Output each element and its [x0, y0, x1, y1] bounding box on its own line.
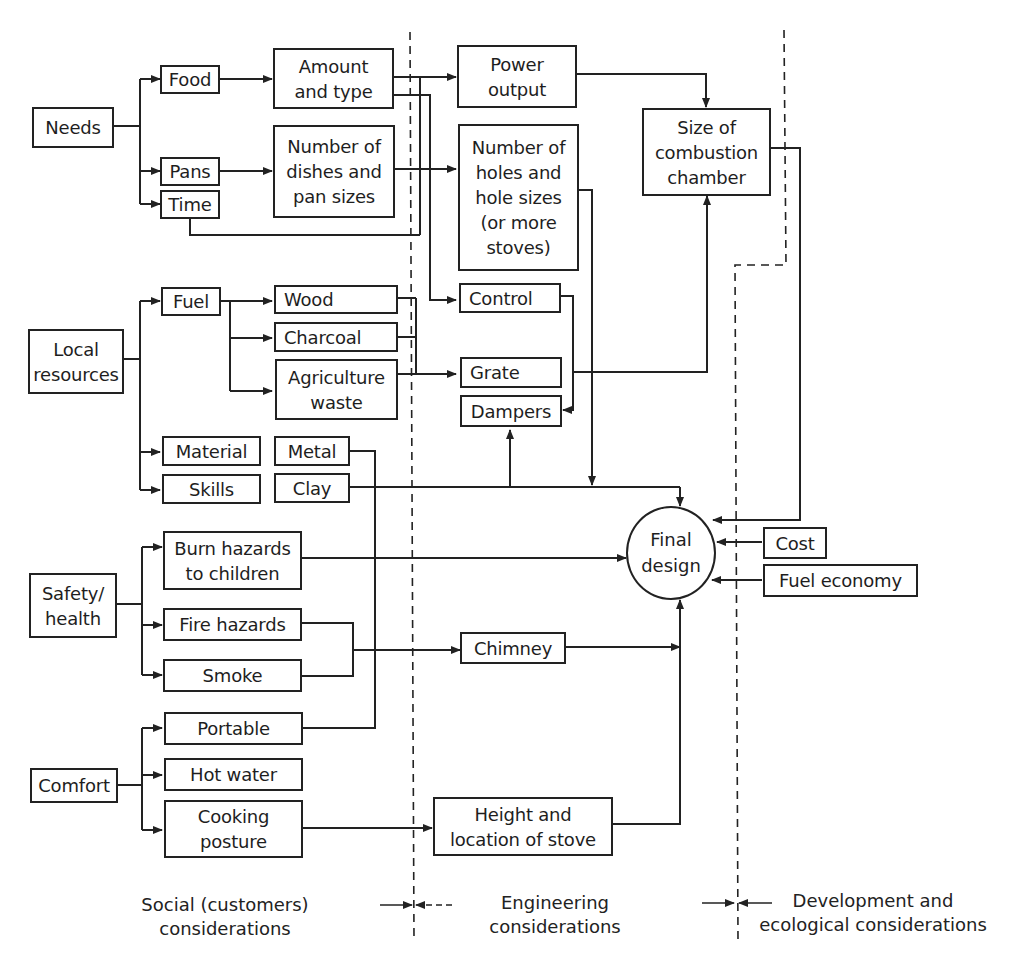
control-box: Control — [459, 283, 561, 313]
portable-box: Portable — [164, 712, 303, 745]
cooking-posture-box: Cooking posture — [164, 800, 303, 858]
wood-box: Wood — [274, 285, 398, 314]
cost-box: Cost — [763, 527, 827, 559]
combustion-chamber-box: Size of combustion chamber — [642, 108, 771, 196]
hot-water-box: Hot water — [164, 758, 303, 791]
food-box: Food — [160, 65, 220, 94]
safety-health-box: Safety/ health — [29, 573, 117, 638]
fuel-economy-box: Fuel economy — [763, 564, 918, 597]
metal-box: Metal — [274, 436, 350, 466]
zone-label-development: Development and ecological consideration… — [748, 889, 998, 937]
pans-box: Pans — [160, 157, 220, 186]
amount-type-box: Amount and type — [273, 48, 394, 109]
holes-box: Number of holes and hole sizes (or more … — [458, 124, 579, 271]
skills-box: Skills — [162, 474, 261, 504]
agriculture-waste-box: Agriculture waste — [275, 359, 398, 420]
zone-label-engineering: Engineering considerations — [475, 891, 635, 939]
material-box: Material — [162, 436, 261, 466]
dishes-pan-sizes-box: Number of dishes and pan sizes — [273, 125, 395, 218]
comfort-box: Comfort — [30, 768, 118, 803]
grate-box: Grate — [460, 357, 562, 388]
power-output-box: Power output — [457, 45, 577, 108]
smoke-box: Smoke — [163, 659, 302, 692]
dampers-box: Dampers — [460, 395, 562, 427]
needs-box: Needs — [32, 107, 114, 148]
height-location-box: Height and location of stove — [433, 797, 613, 856]
clay-box: Clay — [274, 473, 350, 503]
charcoal-box: Charcoal — [274, 322, 398, 352]
zone-label-social: Social (customers) considerations — [130, 893, 320, 941]
burn-hazards-box: Burn hazards to children — [163, 531, 302, 590]
fuel-box: Fuel — [161, 287, 221, 316]
stove-design-diagram: Needs Food Pans Time Amount and type Num… — [0, 0, 1009, 968]
time-box: Time — [160, 190, 220, 219]
chimney-box: Chimney — [460, 632, 566, 664]
local-resources-box: Local resources — [28, 329, 124, 394]
final-design-node: Final design — [626, 506, 716, 600]
fire-hazards-box: Fire hazards — [163, 608, 302, 641]
